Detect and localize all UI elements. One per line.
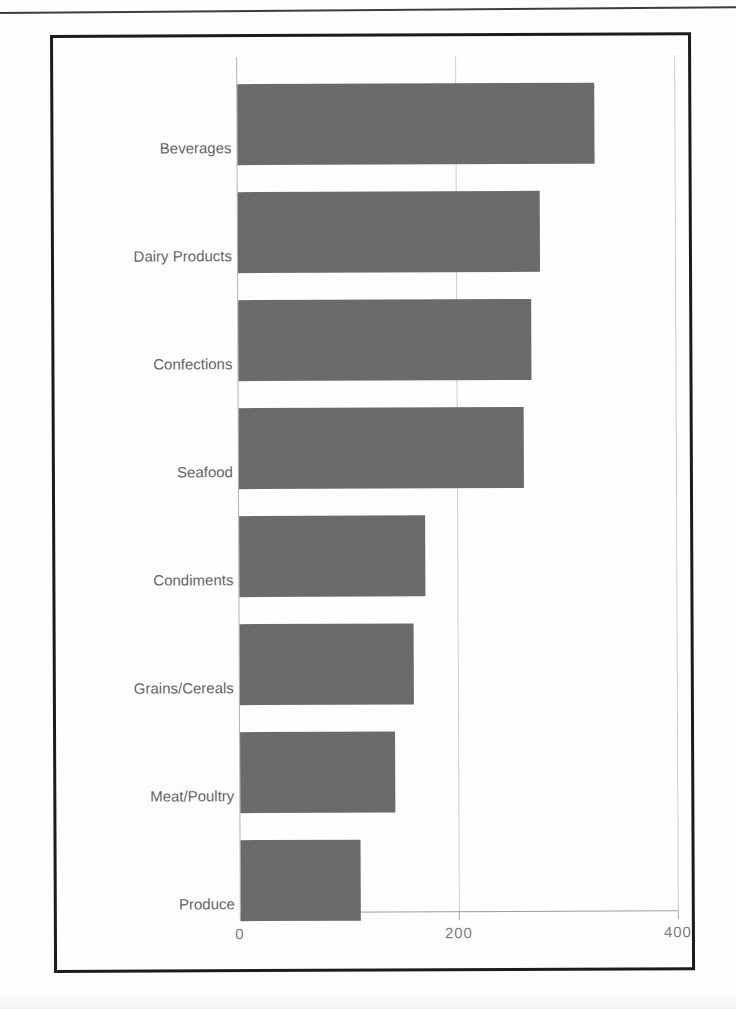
category-label-beverages: Beverages	[61, 139, 231, 157]
bar-confections[interactable]	[238, 299, 531, 381]
x-tick-label-0: 0	[235, 925, 244, 942]
page-top-rule	[0, 6, 736, 14]
x-tick-label-200: 200	[445, 924, 473, 941]
category-label-grains-cereals: Grains/Cereals	[64, 679, 234, 697]
category-label-meat-poultry: Meat/Poultry	[64, 787, 234, 805]
x-tick-label-400: 400	[664, 923, 692, 940]
x-tick-200	[459, 911, 460, 920]
category-label-produce: Produce	[65, 895, 235, 913]
bar-meat-poultry[interactable]	[240, 731, 396, 813]
category-label-condiments: Condiments	[63, 571, 233, 589]
category-label-dairy-products: Dairy Products	[62, 247, 232, 265]
bar-condiments[interactable]	[239, 515, 425, 597]
plot-area: 0 200 400	[236, 55, 678, 932]
category-label-confections: Confections	[62, 355, 232, 373]
category-axis-labels: Beverages Dairy Products Confections Sea…	[53, 57, 235, 933]
bar-grains-cereals[interactable]	[240, 623, 415, 705]
bar-produce[interactable]	[241, 840, 362, 922]
x-tick-400	[678, 910, 679, 919]
category-label-seafood: Seafood	[63, 463, 233, 481]
bar-seafood[interactable]	[239, 407, 524, 489]
bar-beverages[interactable]	[237, 83, 595, 166]
bar-dairy-products[interactable]	[238, 191, 540, 273]
gridline-400	[674, 55, 679, 910]
scan-bottom-edge	[0, 993, 736, 1009]
chart-frame: Beverages Dairy Products Confections Sea…	[50, 32, 695, 973]
